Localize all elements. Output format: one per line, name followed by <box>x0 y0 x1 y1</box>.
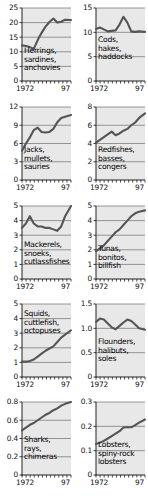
y-tick-label: 10 <box>0 48 18 55</box>
chart-panel: 00.10.20.3197297Lobsters,spiny-rocklobst… <box>74 394 148 496</box>
y-tick-label: 6 <box>0 140 18 147</box>
x-tick-label-start: 1972 <box>16 283 34 290</box>
series-title-line: sauries <box>24 163 52 172</box>
y-tick-label: 5 <box>0 63 18 70</box>
y-tick-label: 8 <box>74 103 92 110</box>
y-tick-label: 4 <box>74 217 92 224</box>
series-title-line: octopuses <box>24 327 60 336</box>
chart-panel: 012345197297Squids,cuttlefish,octopuses <box>0 296 74 394</box>
y-tick-label: 2 <box>0 246 18 253</box>
y-tick-label: 5 <box>74 53 92 60</box>
series-title: Flounders,halibuts,soles <box>98 338 135 364</box>
chart-panel: 051015197297Cods,hakes,haddocks <box>74 0 148 99</box>
y-tick-label: 0.5 <box>74 349 92 356</box>
y-tick-label: 9 <box>0 122 18 129</box>
y-tick-label: 1.5 <box>74 300 92 307</box>
x-tick-label-start: 1972 <box>16 184 34 191</box>
y-tick-label: 20 <box>0 19 18 26</box>
series-title: Redfishes,basses,congers <box>98 146 135 172</box>
y-tick-label: 1 <box>0 261 18 268</box>
y-tick-label: 2 <box>74 158 92 165</box>
y-tick-label: 1.0 <box>74 325 92 332</box>
chart-panel: 00.20.40.60.8197297Sharks,rays,chimeras <box>0 394 74 496</box>
y-tick-label: 3 <box>0 330 18 337</box>
y-tick-label: 2 <box>0 344 18 351</box>
y-tick-label: 10 <box>74 29 92 36</box>
x-tick-label-end: 97 <box>61 283 70 290</box>
x-tick-label-start: 1972 <box>90 184 108 191</box>
series-title: Sharks,rays,chimeras <box>24 436 57 462</box>
y-tick-label: 4 <box>0 315 18 322</box>
y-tick-label: 2 <box>74 246 92 253</box>
chart-panel: 012345197297Tunas,bonitos,billfish <box>74 198 148 296</box>
y-tick-label: 3 <box>74 232 92 239</box>
y-tick-label: 12 <box>0 103 18 110</box>
x-tick-label-start: 1972 <box>90 381 108 388</box>
series-title-line: cutlassfishes <box>24 258 70 267</box>
y-tick-label: 25 <box>0 4 18 11</box>
y-tick-label: 5 <box>74 202 92 209</box>
x-tick-label-end: 97 <box>135 85 144 92</box>
y-tick-label: 0.4 <box>0 435 18 442</box>
x-tick-label-end: 97 <box>135 184 144 191</box>
y-tick-label: 4 <box>74 140 92 147</box>
series-title: Tunas,bonitos,billfish <box>98 245 126 271</box>
series-title: Cods,hakes,haddocks <box>98 36 132 62</box>
y-tick-label: 1 <box>74 261 92 268</box>
y-tick-label: 4 <box>0 217 18 224</box>
small-multiples-grid: 0510152025197297Herrings,sardines,anchov… <box>0 0 148 496</box>
x-tick-label-start: 1972 <box>16 85 34 92</box>
x-tick-label-end: 97 <box>135 479 144 486</box>
x-tick-label-end: 97 <box>61 381 70 388</box>
x-tick-label-end: 97 <box>61 184 70 191</box>
x-tick-label-start: 1972 <box>90 85 108 92</box>
y-tick-label: 0.8 <box>0 398 18 405</box>
series-title-line: billfish <box>98 262 126 271</box>
series-title: Herrings,sardines,anchovies <box>24 47 60 73</box>
series-title-line: soles <box>98 355 135 364</box>
y-tick-label: 3 <box>0 158 18 165</box>
series-title-line: lobsters <box>98 458 134 467</box>
y-tick-label: 15 <box>74 4 92 11</box>
y-tick-label: 0.1 <box>74 447 92 454</box>
x-tick-label-start: 1972 <box>16 381 34 388</box>
x-tick-label-start: 1972 <box>90 479 108 486</box>
y-tick-label: 1 <box>0 359 18 366</box>
series-title: Mackerels,snoeks,cutlassfishes <box>24 241 70 267</box>
series-title: Jacks,mullets,sauries <box>24 146 52 172</box>
series-title-line: chimeras <box>24 453 57 462</box>
x-tick-label-end: 97 <box>61 85 70 92</box>
chart-panel: 02468197297Redfishes,basses,congers <box>74 99 148 198</box>
y-tick-label: 6 <box>74 122 92 129</box>
x-tick-label-start: 1972 <box>90 283 108 290</box>
y-tick-label: 0.2 <box>74 423 92 430</box>
chart-panel: 012345197297Mackerels,snoeks,cutlassfish… <box>0 198 74 296</box>
y-tick-label: 15 <box>0 34 18 41</box>
series-title-line: haddocks <box>98 53 132 62</box>
series-title-line: congers <box>98 163 135 172</box>
y-tick-label: 5 <box>0 202 18 209</box>
chart-panel: 00.51.01.5197297Flounders,halibuts,soles <box>74 296 148 394</box>
x-tick-label-start: 1972 <box>16 479 34 486</box>
series-title: Lobsters,spiny-rocklobsters <box>98 441 134 467</box>
y-tick-label: 3 <box>0 232 18 239</box>
x-tick-label-end: 97 <box>135 381 144 388</box>
chart-panel: 0510152025197297Herrings,sardines,anchov… <box>0 0 74 99</box>
y-tick-label: 0.6 <box>0 417 18 424</box>
x-tick-label-end: 97 <box>61 479 70 486</box>
chart-panel: 036912197297Jacks,mullets,sauries <box>0 99 74 198</box>
x-tick-label-end: 97 <box>135 283 144 290</box>
y-tick-label: 0.3 <box>74 398 92 405</box>
series-title-line: anchovies <box>24 64 60 73</box>
y-tick-label: 0.2 <box>0 453 18 460</box>
y-tick-label: 5 <box>0 300 18 307</box>
series-title: Squids,cuttlefish,octopuses <box>24 310 60 336</box>
